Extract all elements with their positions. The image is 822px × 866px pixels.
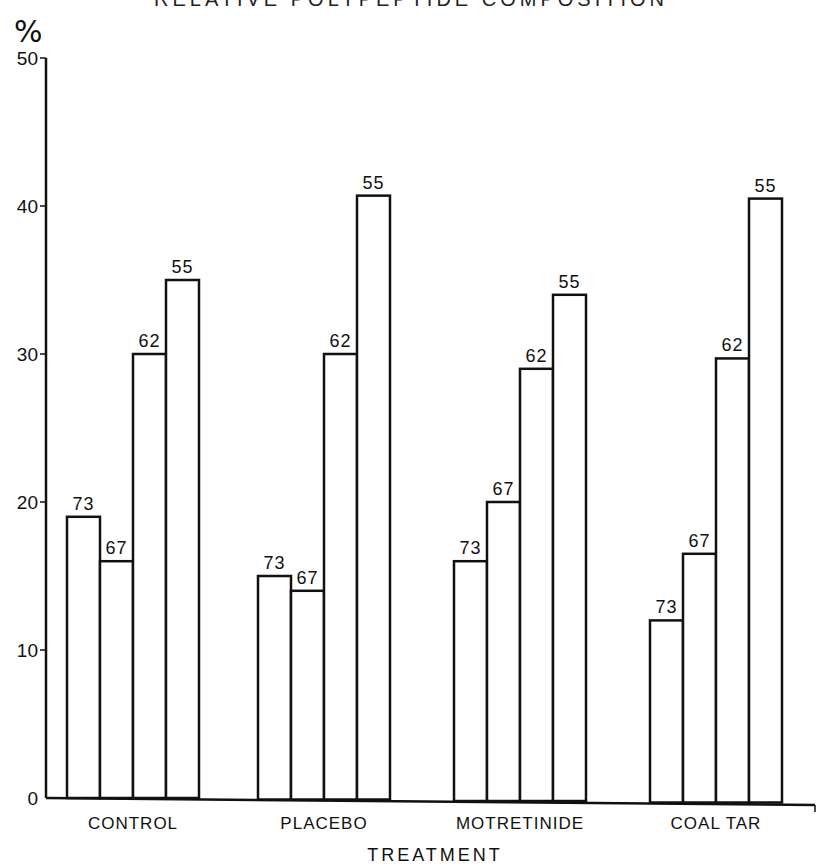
bar	[683, 554, 716, 803]
y-tick-label: 30	[17, 344, 38, 365]
category-label: CONTROL	[88, 814, 178, 833]
bar-value-label: 67	[296, 568, 318, 588]
bar-value-label: 62	[138, 331, 160, 351]
bar	[716, 358, 749, 802]
plot-area: 0102030405073676255CONTROL73676255PLACEB…	[0, 0, 822, 866]
chart-title: RELATIVE POLYPEPTIDE COMPOSITION	[0, 0, 822, 11]
y-tick-label: 10	[17, 640, 38, 661]
bar	[324, 354, 357, 800]
bar	[520, 369, 553, 801]
bar-value-label: 73	[263, 553, 285, 573]
bar-value-label: 67	[688, 531, 710, 551]
y-tick-label: 0	[27, 788, 38, 809]
bar-value-label: 73	[72, 494, 94, 514]
bar	[749, 199, 782, 803]
category-label: MOTRETINIDE	[456, 814, 584, 833]
bar	[100, 561, 133, 798]
y-tick-label: 40	[17, 196, 38, 217]
bar-value-label: 73	[459, 538, 481, 558]
x-axis-title: TREATMENT	[367, 845, 503, 865]
bar	[67, 517, 100, 798]
bar-value-label: 55	[362, 173, 384, 193]
bar-value-label: 67	[105, 538, 127, 558]
bar-chart: RELATIVE POLYPEPTIDE COMPOSITION % 01020…	[0, 0, 822, 866]
bar	[258, 576, 291, 800]
y-tick-label: 20	[17, 492, 38, 513]
y-tick-label: 50	[17, 48, 38, 69]
bar-value-label: 62	[525, 346, 547, 366]
bar-value-label: 55	[754, 176, 776, 196]
bar	[650, 620, 683, 802]
bar-value-label: 62	[721, 335, 743, 355]
bar-value-label: 55	[558, 272, 580, 292]
bar-value-label: 73	[655, 597, 677, 617]
category-label: PLACEBO	[280, 814, 367, 833]
y-axis-unit: %	[14, 14, 43, 49]
bar	[553, 295, 586, 801]
bar	[454, 561, 487, 801]
bar-value-label: 67	[492, 479, 514, 499]
bar	[357, 196, 390, 800]
bar	[291, 591, 324, 800]
bar-value-label: 62	[329, 331, 351, 351]
bar-value-label: 55	[171, 257, 193, 277]
category-label: COAL TAR	[671, 814, 762, 833]
bar	[133, 354, 166, 798]
bar	[166, 280, 199, 798]
bar	[487, 502, 520, 801]
